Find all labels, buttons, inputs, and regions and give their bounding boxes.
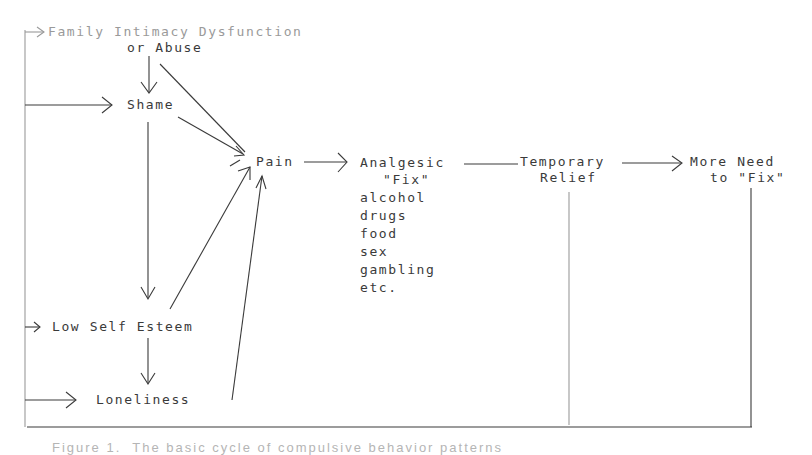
node-loneliness: Loneliness [96, 392, 190, 408]
node-family-part1: Family Intimacy Dysfunction [48, 24, 303, 40]
relief-line1: Temporary [520, 154, 605, 170]
arrow-low-self-esteem-to-loneliness [141, 338, 155, 384]
node-low-self-esteem: Low Self Esteem [52, 319, 193, 335]
arrow-to-loneliness [25, 392, 76, 408]
arrow-relief-to-more-need [622, 156, 682, 171]
analgesic-example: sex [360, 244, 388, 260]
node-family-part2: or Abuse [127, 40, 202, 56]
arrow-to-shame [25, 97, 112, 113]
figure-caption: Figure 1. The basic cycle of compulsive … [52, 440, 503, 455]
analgesic-example: gambling [360, 262, 435, 278]
relief-line2: Relief [540, 170, 597, 186]
analgesic-fix: "Fix" [383, 172, 430, 188]
arrow-family-to-shame [141, 56, 157, 93]
node-shame: Shame [127, 97, 174, 113]
analgesic-example: food [360, 226, 398, 242]
analgesic-example: alcohol [360, 190, 426, 206]
analgesic-example: etc. [360, 280, 398, 296]
more-need-line1: More Need [690, 154, 775, 170]
analgesic-title: Analgesic [360, 155, 445, 171]
arrow-tick [230, 160, 240, 166]
more-need-line2: to "Fix" [710, 170, 785, 186]
arrow-low-self-esteem-to-pain [170, 167, 250, 309]
arrow-loneliness-to-pain [232, 176, 266, 400]
node-pain: Pain [256, 154, 294, 170]
family-label: Family Intimacy Dysfunction [48, 24, 303, 39]
arrow-to-family [25, 27, 44, 37]
arrow-to-low-self-esteem [25, 322, 40, 332]
arrow-shame-to-low-self-esteem [141, 122, 155, 299]
arrow-shame-to-pain [178, 117, 244, 156]
arrow-pain-to-analgesic [304, 153, 347, 172]
analgesic-example: drugs [360, 208, 407, 224]
